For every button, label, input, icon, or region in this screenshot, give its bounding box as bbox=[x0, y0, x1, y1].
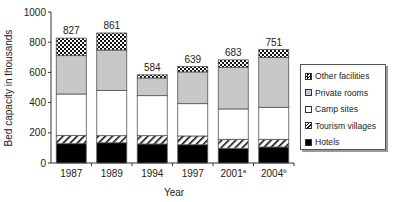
legend-item-hotels: Hotels bbox=[305, 134, 381, 151]
bar-segment-private-rooms bbox=[218, 67, 248, 109]
bar-segment-other-facilities bbox=[137, 75, 167, 78]
y-tick-label: 200 bbox=[29, 127, 46, 138]
checkerboard-swatch-icon bbox=[305, 73, 312, 80]
bar-segment-camp-sites bbox=[178, 104, 208, 136]
x-tick-label: 2004b bbox=[261, 168, 287, 179]
white-swatch-icon bbox=[305, 106, 312, 113]
bar-total-label: 639 bbox=[184, 54, 201, 65]
grey-swatch-icon bbox=[305, 89, 312, 96]
y-tick-label: 400 bbox=[29, 97, 46, 108]
bar-segment-tourism-villages bbox=[97, 136, 127, 143]
x-tick-label: 2001a bbox=[220, 168, 246, 179]
bar-segment-tourism-villages bbox=[137, 136, 167, 144]
y-tick-label: 600 bbox=[29, 67, 46, 78]
legend: Other facilities Private rooms Camp site… bbox=[300, 64, 386, 150]
legend-label: Hotels bbox=[315, 137, 339, 147]
bar-segment-hotels bbox=[178, 145, 208, 163]
bar-segment-other-facilities bbox=[56, 38, 86, 56]
bar-total-label: 827 bbox=[63, 25, 80, 36]
y-tick-label: 0 bbox=[40, 158, 46, 169]
bar-segment-other-facilities bbox=[259, 50, 289, 58]
bar-segment-private-rooms bbox=[97, 50, 127, 90]
bar-segment-hotels bbox=[218, 148, 248, 163]
bar-segment-hotels bbox=[97, 143, 127, 163]
x-tick-label: 1989 bbox=[101, 168, 124, 179]
bar-segment-camp-sites bbox=[137, 96, 167, 136]
x-tick-label: 1994 bbox=[141, 168, 164, 179]
legend-item-other-facilities: Other facilities bbox=[305, 68, 381, 85]
bar-segment-other-facilities bbox=[97, 33, 127, 50]
bar-total-label: 683 bbox=[225, 47, 242, 58]
bar-segment-camp-sites bbox=[259, 107, 289, 139]
bar-segment-other-facilities bbox=[218, 60, 248, 67]
bar-total-label: 751 bbox=[265, 37, 282, 48]
x-axis-label: Year bbox=[164, 187, 185, 198]
bar-segment-camp-sites bbox=[97, 90, 127, 135]
legend-item-camp-sites: Camp sites bbox=[305, 101, 381, 118]
bar-segment-private-rooms bbox=[178, 72, 208, 104]
legend-label: Other facilities bbox=[315, 71, 369, 81]
legend-label: Camp sites bbox=[315, 104, 358, 114]
y-tick-label: 800 bbox=[29, 37, 46, 48]
legend-item-private-rooms: Private rooms bbox=[305, 85, 381, 102]
hatch-swatch-icon bbox=[305, 122, 312, 129]
bar-segment-hotels bbox=[259, 147, 289, 163]
bar-total-label: 861 bbox=[103, 20, 120, 31]
bar-segment-tourism-villages bbox=[56, 135, 86, 143]
bar-segment-camp-sites bbox=[56, 94, 86, 135]
legend-item-tourism-villages: Tourism villages bbox=[305, 118, 381, 135]
bar-segment-hotels bbox=[137, 144, 167, 163]
bar-segment-private-rooms bbox=[56, 56, 86, 94]
bar-segment-tourism-villages bbox=[218, 139, 248, 148]
bar-segment-tourism-villages bbox=[259, 139, 289, 147]
bars bbox=[56, 33, 289, 163]
bar-segment-hotels bbox=[56, 144, 86, 163]
bar-segment-tourism-villages bbox=[178, 136, 208, 145]
bar-segment-other-facilities bbox=[178, 67, 208, 72]
x-tick-label: 1987 bbox=[60, 168, 83, 179]
bar-segment-camp-sites bbox=[218, 109, 248, 139]
y-axis-label: Bed capacity in thousands bbox=[3, 30, 14, 147]
bar-segment-private-rooms bbox=[259, 57, 289, 107]
y-tick-label: 1000 bbox=[24, 7, 47, 18]
x-tick-label: 1997 bbox=[182, 168, 205, 179]
black-swatch-icon bbox=[305, 139, 312, 146]
labels: 82719878611989584199463919976832001a7512… bbox=[60, 20, 287, 179]
legend-label: Private rooms bbox=[315, 88, 368, 98]
legend-label: Tourism villages bbox=[315, 121, 376, 131]
bar-segment-private-rooms bbox=[137, 78, 167, 96]
bar-total-label: 584 bbox=[144, 62, 161, 73]
